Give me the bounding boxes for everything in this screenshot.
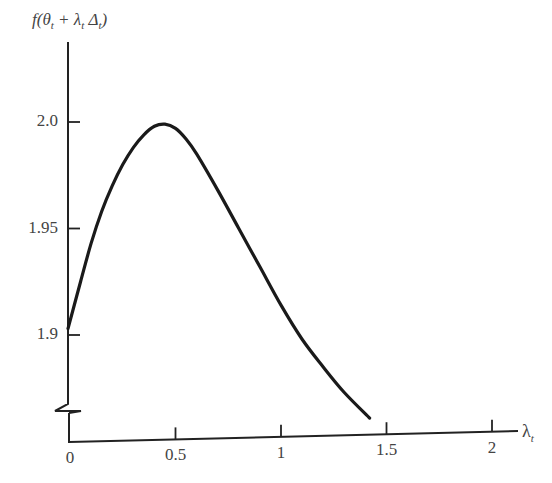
y-tick-label: 2.0 xyxy=(37,111,58,131)
x-axis xyxy=(69,431,518,442)
x-tick-label: 0.5 xyxy=(165,445,186,465)
y-axis-break-icon xyxy=(55,403,81,413)
x-tick-label: 2 xyxy=(488,438,497,458)
x-tick-label: 0 xyxy=(66,448,75,468)
data-line xyxy=(68,124,370,418)
y-tick-label: 1.95 xyxy=(28,218,58,238)
y-axis-label: f(θt + λt Δt) xyxy=(32,10,107,31)
y-tick-label: 1.9 xyxy=(37,324,58,344)
x-tick-label: 1.5 xyxy=(376,440,397,460)
x-tick-label: 1 xyxy=(277,443,286,463)
x-axis-label: λt xyxy=(522,421,534,444)
chart-canvas xyxy=(0,0,552,483)
